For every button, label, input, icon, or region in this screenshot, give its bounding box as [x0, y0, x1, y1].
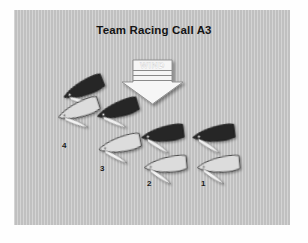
boat-label-4: 4 — [62, 141, 66, 150]
boat-dark-3[interactable] — [140, 123, 185, 156]
boat-dark-4[interactable] — [191, 123, 236, 156]
boat-label-2: 2 — [147, 179, 151, 188]
boat-dark-2[interactable] — [95, 96, 143, 134]
boat-light-4[interactable] — [56, 96, 105, 135]
racing-diagram: WIND — [0, 0, 308, 243]
slide-canvas: Team Racing Call A3 WIND — [0, 0, 308, 243]
boat-light-3[interactable] — [97, 132, 144, 167]
wind-label: WIND — [140, 60, 165, 70]
boat-label-3: 3 — [100, 164, 104, 173]
boat-label-1: 1 — [201, 179, 205, 188]
